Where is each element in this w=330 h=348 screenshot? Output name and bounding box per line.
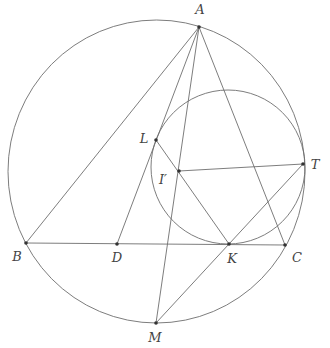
label-B: B [11,249,22,264]
point-labels: ABCDKLI′TM [11,2,320,345]
label-M: M [147,330,162,345]
point-T [301,162,305,166]
label-A: A [194,2,204,17]
point-D [115,242,119,246]
point-C [283,243,287,247]
segment-AB [26,27,199,243]
tangent-circle [151,90,305,244]
geometry-diagram: ABCDKLI′TM [0,0,330,348]
segment-BC [26,243,285,245]
label-D: D [111,250,123,265]
circumcircle [8,20,305,323]
segment-LK [156,140,229,244]
point-K [227,242,231,246]
point-L [154,138,158,142]
segment-IT [179,164,303,171]
segment-KT [229,164,303,244]
segment-KM [156,244,229,323]
segment-AC [199,27,285,245]
label-C: C [292,250,302,265]
label-K: K [226,251,238,266]
label-T: T [311,157,321,172]
point-I [177,169,181,173]
segment-AD [117,27,199,244]
point-B [24,241,28,245]
label-I: I′ [158,172,167,187]
label-L: L [139,131,149,146]
point-M [154,321,158,325]
point-A [197,25,201,29]
